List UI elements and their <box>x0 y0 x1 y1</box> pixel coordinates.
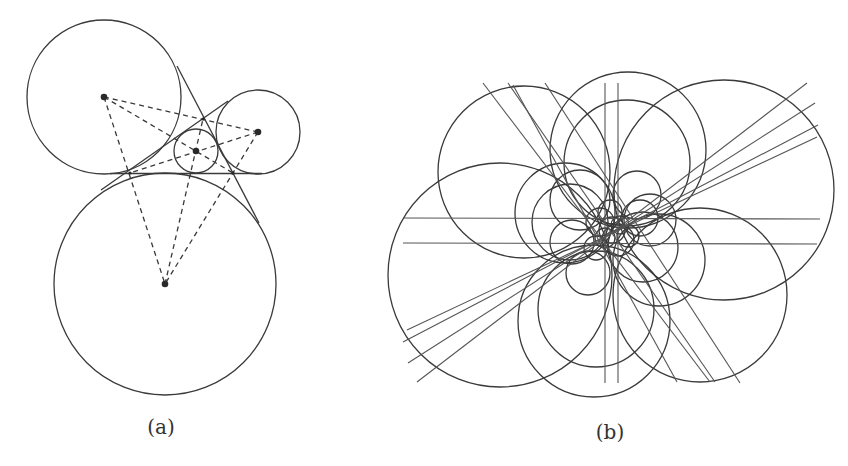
construction-line <box>403 243 817 244</box>
construction-line <box>403 125 818 342</box>
center-point <box>255 129 262 136</box>
construction-circle <box>613 171 661 219</box>
tangent-line <box>177 66 259 223</box>
dashed-connector <box>165 132 258 284</box>
construction-line <box>513 85 677 382</box>
construction-line <box>403 218 820 219</box>
vertex-point <box>201 117 204 120</box>
vertex-point <box>128 171 131 174</box>
tangent-line <box>101 101 228 190</box>
panel-b-label: (b) <box>596 420 624 444</box>
construction-line <box>483 83 710 382</box>
panel-a-diagram <box>27 20 300 395</box>
construction-line <box>407 137 817 330</box>
construction-circle <box>518 245 670 397</box>
panel-b-diagram <box>388 72 834 397</box>
center-point <box>162 281 169 288</box>
vertex-point <box>231 171 234 174</box>
dashed-connector <box>104 97 165 284</box>
panel-a-label: (a) <box>147 415 175 439</box>
construction-circle <box>438 86 610 258</box>
figure-canvas <box>0 0 848 466</box>
construction-line <box>545 83 740 383</box>
construction-circle <box>388 163 612 387</box>
center-point <box>193 148 200 155</box>
center-point <box>101 94 108 101</box>
